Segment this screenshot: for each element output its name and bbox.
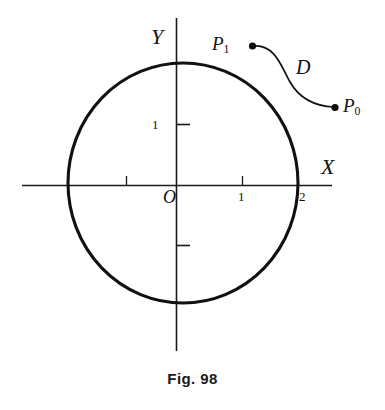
figure-svg: [0, 0, 385, 410]
point-label-p1-subscript: 1: [224, 43, 230, 56]
point-label-p0-letter: P: [343, 95, 355, 116]
origin-label: O: [163, 188, 176, 206]
point-label-p1-letter: P: [212, 33, 224, 54]
unit-circle-radius-2: [68, 63, 298, 303]
point-label-p1: P1: [212, 34, 230, 55]
x-axis-label: X: [321, 156, 334, 178]
x-tick-label-1: 1: [238, 190, 245, 203]
point-p0-dot: [331, 104, 338, 111]
figure-container: Y X O 1 2 1 P1 P0 D Fig. 98: [0, 0, 385, 410]
curve-label-d: D: [296, 57, 310, 77]
x-tick-label-2: 2: [299, 190, 306, 203]
point-label-p0-subscript: 0: [355, 105, 361, 118]
y-axis-label: Y: [151, 26, 163, 48]
y-tick-label-1: 1: [152, 118, 159, 131]
point-label-p0: P0: [343, 96, 361, 117]
point-p1-dot: [249, 42, 256, 49]
figure-caption: Fig. 98: [0, 370, 385, 387]
